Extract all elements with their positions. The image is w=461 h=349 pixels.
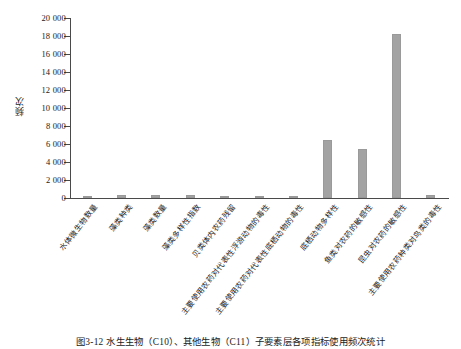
x-axis-labels: 水体微生物数量藻类种类藻类数量藻类多样性指数贝类体内农药残留主要使用农药对代表性… bbox=[0, 199, 461, 334]
y-axis-title: 频次 bbox=[12, 96, 25, 116]
y-tick-label: 2 000 bbox=[46, 175, 66, 185]
bar bbox=[117, 195, 126, 198]
y-tick-label: 16 000 bbox=[41, 49, 66, 59]
bar bbox=[426, 195, 435, 198]
bar bbox=[392, 34, 401, 198]
y-tick-label: 4 000 bbox=[46, 157, 66, 167]
y-tick-label: 8 000 bbox=[46, 121, 66, 131]
figure-container: 频次 02 0004 0006 0008 00010 00012 00014 0… bbox=[0, 0, 461, 349]
bar bbox=[151, 195, 160, 198]
bar bbox=[83, 196, 92, 198]
figure-caption: 图3-12 水生生物（C10）、其他生物（C11）子要素层各项指标使用频次统计 bbox=[0, 334, 461, 348]
y-tick-label: 18 000 bbox=[41, 31, 66, 41]
bar bbox=[323, 140, 332, 199]
bar bbox=[220, 196, 229, 198]
y-tick-label: 14 000 bbox=[41, 67, 66, 77]
plot-area: 02 0004 0006 0008 00010 00012 00014 0001… bbox=[70, 18, 448, 198]
y-tick-label: 12 000 bbox=[41, 85, 66, 95]
y-tick-label: 10 000 bbox=[41, 103, 66, 113]
y-tick-label: 20 000 bbox=[41, 13, 66, 23]
bar bbox=[289, 196, 298, 198]
x-tick-label: 藻类数量 bbox=[142, 203, 168, 233]
x-tick-label: 水体微生物数量 bbox=[58, 203, 99, 252]
x-tick-label: 藻类种类 bbox=[108, 203, 134, 233]
y-tick-label: 6 000 bbox=[46, 139, 66, 149]
x-tick-label: 主要使用农药种类对鸟类的毒性 bbox=[367, 203, 443, 297]
bar bbox=[358, 149, 367, 199]
bar bbox=[186, 195, 195, 198]
bar bbox=[255, 196, 264, 198]
